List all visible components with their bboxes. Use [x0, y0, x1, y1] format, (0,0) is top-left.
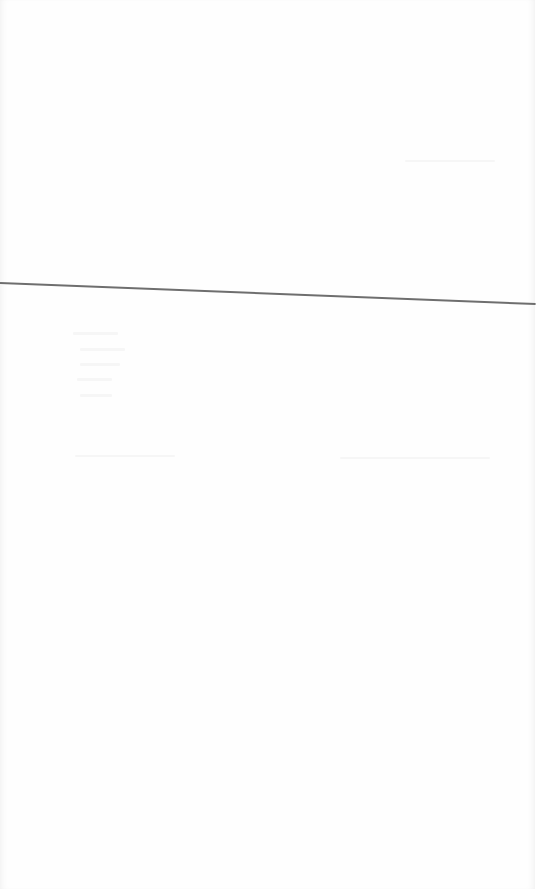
faint-text-line	[80, 394, 112, 397]
faint-text-line	[80, 348, 125, 351]
faint-text-line	[73, 332, 118, 335]
faint-text-line	[340, 457, 490, 459]
faint-text-line	[405, 160, 495, 162]
faint-text-line	[77, 378, 112, 381]
faint-text-line	[75, 455, 175, 457]
faint-text-line	[80, 363, 120, 366]
horizontal-rule	[0, 282, 536, 305]
